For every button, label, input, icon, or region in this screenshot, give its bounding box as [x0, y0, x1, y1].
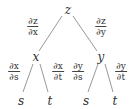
edge-z-y [73, 16, 97, 51]
node-x-t: t [48, 95, 53, 107]
node-y-s: s [83, 95, 89, 107]
edge-label-dx-dt: ∂x ∂t [52, 62, 64, 82]
edge-label-dz-dx: ∂z ∂x [27, 17, 38, 37]
node-y: y [98, 51, 105, 63]
edge-label-dy-ds: ∂y ∂s [72, 62, 84, 82]
edge-y-t [105, 64, 113, 92]
node-x-s: s [18, 95, 24, 107]
edge-x-t [40, 64, 48, 92]
edge-y-s [88, 64, 98, 92]
edge-label-dz-dy: ∂z ∂y [95, 17, 106, 37]
edge-z-x [39, 16, 62, 51]
node-y-t: t [113, 95, 118, 107]
node-z: z [65, 4, 71, 16]
edge-label-dy-dt: ∂y ∂t [115, 62, 127, 82]
edge-x-s [23, 64, 33, 92]
node-x: x [33, 51, 40, 63]
edge-label-dx-ds: ∂x ∂s [8, 62, 20, 82]
